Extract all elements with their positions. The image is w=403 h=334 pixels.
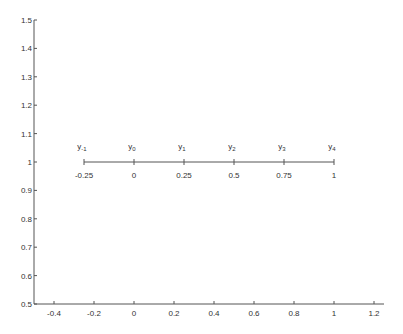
point-name-label: y4 bbox=[328, 142, 336, 152]
chart: 0.50.60.70.80.911.11.21.31.41.5-0.4-0.20… bbox=[0, 0, 403, 334]
x-tick-label: -0.4 bbox=[47, 309, 61, 318]
y-tick-label: 0.6 bbox=[21, 272, 33, 281]
x-tick-label: 1 bbox=[332, 309, 337, 318]
point-value-label: 0.75 bbox=[276, 171, 292, 180]
x-tick-label: -0.2 bbox=[87, 309, 101, 318]
point-name-label: y0 bbox=[128, 142, 136, 152]
y-tick-label: 1.4 bbox=[21, 44, 33, 53]
x-tick-label: 0.4 bbox=[208, 309, 220, 318]
x-tick-label: 1.2 bbox=[368, 309, 380, 318]
point-value-label: 0 bbox=[132, 171, 137, 180]
x-tick-label: 0.2 bbox=[168, 309, 180, 318]
x-tick-label: 0 bbox=[132, 309, 137, 318]
point-value-label: -0.25 bbox=[75, 171, 94, 180]
y-tick-label: 0.5 bbox=[21, 300, 33, 309]
y-tick-label: 1 bbox=[28, 158, 33, 167]
y-tick-label: 0.9 bbox=[21, 186, 33, 195]
point-name-label: y2 bbox=[228, 142, 236, 152]
y-tick-label: 0.8 bbox=[21, 215, 33, 224]
point-value-label: 1 bbox=[332, 171, 337, 180]
point-name-label: y3 bbox=[278, 142, 286, 152]
point-name-label: y1 bbox=[178, 142, 186, 152]
point-name-label: y-1 bbox=[77, 142, 87, 152]
y-tick-label: 1.2 bbox=[21, 101, 33, 110]
y-tick-label: 0.7 bbox=[21, 243, 33, 252]
y-tick-label: 1.5 bbox=[21, 16, 33, 25]
y-tick-label: 1.1 bbox=[21, 130, 33, 139]
point-value-label: 0.25 bbox=[176, 171, 192, 180]
axes: 0.50.60.70.80.911.11.21.31.41.5-0.4-0.20… bbox=[21, 16, 384, 318]
y-tick-label: 1.3 bbox=[21, 73, 33, 82]
point-value-label: 0.5 bbox=[228, 171, 240, 180]
x-tick-label: 0.6 bbox=[248, 309, 260, 318]
plot-area: -0.25y-10y00.25y10.5y20.75y31y4 bbox=[75, 142, 337, 180]
x-tick-label: 0.8 bbox=[288, 309, 300, 318]
